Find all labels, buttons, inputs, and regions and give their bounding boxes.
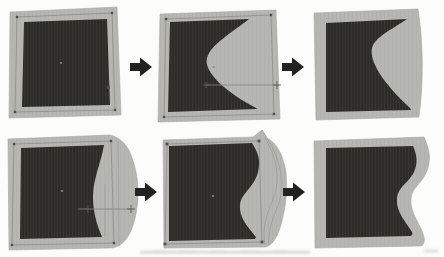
center-point-marker: [212, 195, 214, 197]
panel-bottom-left-bulged-surface: [8, 135, 138, 250]
center-point-marker: [213, 66, 215, 68]
right-arrow-icon: [282, 58, 304, 77]
panel-top-left-initial-square: [9, 7, 121, 118]
panel-bottom-right-wave-result: [314, 137, 429, 248]
center-point-marker: [61, 190, 63, 192]
center-point-marker: [60, 62, 62, 64]
right-arrow-icon: [135, 183, 157, 202]
figure-canvas: [0, 0, 444, 257]
cropped-caption-remnant: [140, 250, 438, 255]
panel-top-right-cut-result: [314, 9, 422, 120]
figure-svg: [0, 0, 444, 257]
panel-top-middle-curve-cut-editing: [158, 10, 281, 122]
edge-control-point: [107, 86, 110, 89]
panel-bottom-middle-wave-editing: [163, 130, 287, 248]
right-arrow-icon: [130, 58, 152, 77]
inner-solid-with-s-edge: [169, 143, 259, 241]
inner-solid-square: [22, 19, 110, 107]
